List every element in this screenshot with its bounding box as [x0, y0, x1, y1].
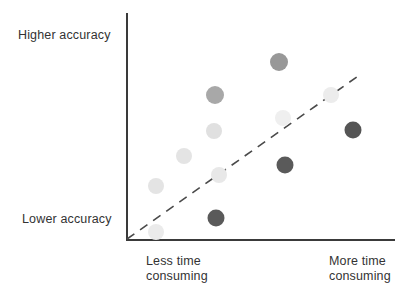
scatter-plot-figure: Higher accuracy Lower accuracy Less time…: [0, 0, 412, 300]
data-point: [275, 110, 291, 126]
data-point: [206, 123, 222, 139]
y-axis-label-high: Higher accuracy: [18, 28, 111, 43]
data-point: [345, 122, 362, 139]
data-point: [176, 148, 192, 164]
data-point: [277, 157, 294, 174]
x-axis-label-right: More time consuming: [329, 254, 391, 284]
data-point: [148, 178, 164, 194]
data-point: [323, 87, 339, 103]
data-point: [270, 53, 288, 71]
y-axis-label-low: Lower accuracy: [22, 212, 112, 227]
data-point: [211, 167, 227, 183]
data-point: [208, 210, 225, 227]
x-axis-label-left: Less time consuming: [146, 254, 208, 284]
data-point: [148, 224, 164, 240]
data-point: [206, 86, 224, 104]
data-points-layer: [126, 13, 395, 240]
